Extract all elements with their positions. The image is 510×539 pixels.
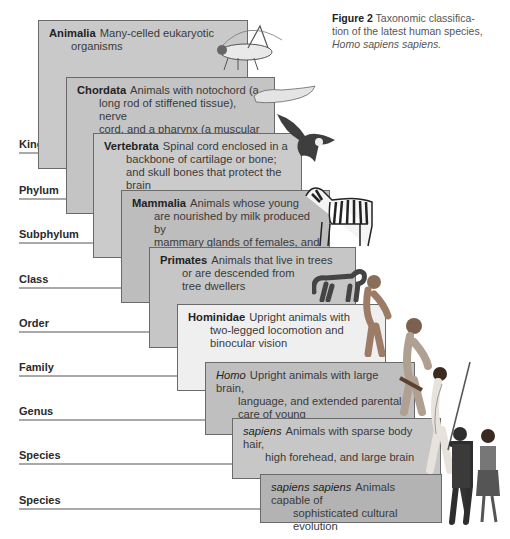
taxon-box-sapiens-sapiens: sapiens sapiensAnimals capable of sophis… — [260, 474, 442, 523]
taxon-box-sapiens: sapiensAnimals with sparse body hair, hi… — [232, 418, 441, 479]
taxon-name: Primates — [160, 254, 207, 266]
modern-humans-icon — [446, 422, 510, 527]
rank-label-family: Family — [19, 361, 54, 373]
taxon-name: Chordata — [77, 84, 126, 96]
taxon-name: Vertebrata — [104, 140, 159, 152]
taxon-desc: binocular vision — [188, 337, 377, 350]
taxon-desc: backbone of cartilage or bone; — [104, 153, 293, 166]
taxon-desc: Animals whose young — [190, 197, 299, 209]
rank-label-genus: Genus — [19, 405, 53, 417]
taxon-desc: long rod of stiffened tissue), nerve — [77, 97, 266, 123]
rank-label-species: Species — [19, 449, 61, 461]
taxon-desc: Animals with notochord (a — [130, 84, 259, 96]
taxon-name: sapiens sapiens — [271, 481, 351, 493]
taxon-desc: two-legged locomotion and — [188, 324, 377, 337]
taxon-desc: sophisticated cultural evolution — [271, 507, 433, 533]
taxon-desc: and skull bones that protect the brain — [104, 166, 293, 192]
grasshopper-icon — [208, 18, 288, 73]
rank-label-species: Species — [19, 494, 61, 506]
taxon-name: Hominidae — [188, 311, 245, 323]
taxon-desc: Spinal cord enclosed in a — [163, 140, 288, 152]
rank-rule — [19, 508, 300, 510]
taxon-desc: Upright animals with — [249, 311, 350, 323]
caption-text-2: tion of the latest human species, — [332, 25, 483, 37]
rank-label-order: Order — [19, 317, 49, 329]
eagle-icon — [275, 110, 340, 165]
taxon-name: Animalia — [49, 27, 96, 39]
early-hominid-icon — [358, 272, 392, 357]
taxon-name: sapiens — [243, 425, 282, 437]
taxon-desc: language, and extended parental — [216, 395, 406, 408]
taxon-name: Homo — [216, 369, 246, 381]
caption-text-1: Taxonomic classifica- — [376, 12, 475, 24]
rank-label-subphylum: Subphylum — [19, 228, 79, 240]
taxon-name: Mammalia — [132, 197, 186, 209]
rank-label-class: Class — [19, 273, 48, 285]
figure-label: Figure 2 — [332, 12, 373, 24]
taxon-desc: are nourished by milk produced by — [132, 210, 321, 236]
figure-caption: Figure 2 Taxonomic classifica- tion of t… — [332, 12, 502, 51]
caption-species: Homo sapiens sapiens. — [332, 38, 441, 50]
taxon-desc: high forehead, and large brain — [243, 451, 432, 464]
zebra-icon — [302, 180, 377, 248]
lancelet-icon — [252, 82, 317, 110]
rank-label-phylum: Phylum — [19, 184, 59, 196]
taxon-desc: Many-celled eukaryotic — [100, 27, 214, 39]
